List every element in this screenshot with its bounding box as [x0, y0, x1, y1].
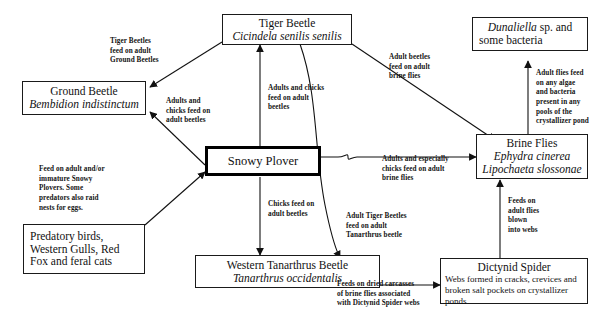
label-plover-eats-tiger: Adults and chicks feed on adult beetles [268, 84, 324, 113]
label-flies-eat-algae: Adult flies feed on any algae and bacter… [536, 69, 589, 127]
tiger-beetle-scientific-name: Cicindela senilis senilis [232, 30, 341, 43]
node-dunaliella[interactable]: Dunaliella sp. and some bacteria [472, 17, 588, 51]
label-tiger-eats-brineflies: Adult beetles feed on adult brine flies [389, 53, 430, 82]
ground-beetle-common-name: Ground Beetle [50, 85, 117, 98]
edge-predators-to-plover [145, 172, 205, 225]
node-dictynid-spider[interactable]: Dictynid Spider Webs formed in cracks, c… [440, 258, 588, 304]
predators-line-3: Fox and feral cats [30, 255, 112, 268]
edge-tiger-to-ground [150, 42, 222, 87]
ground-beetle-scientific-name: Bembidion indistinctum [29, 98, 139, 111]
food-web-diagram: Tiger Beetle Cicindela senilis senilis G… [0, 0, 611, 325]
label-tanarthrus-eats-carcasses: Feeds on dried carcasses of brine flies … [337, 280, 420, 309]
node-snowy-plover[interactable]: Snowy Plover [205, 146, 321, 176]
dunaliella-rest: sp. and [537, 21, 572, 33]
label-plover-eats-tanarthrus: Chicks feed on adult beetles [268, 200, 314, 219]
predators-line-2: Western Gulls, Red [30, 243, 119, 256]
label-plover-eats-ground: Adults and chicks feed on adult beetles [166, 97, 210, 126]
label-spider-eats-flies: Feeds on adult flies blown into webs [508, 197, 539, 236]
label-tiger-eats-ground: Tiger Beetles feed on adult Ground Beetl… [110, 37, 159, 66]
label-plover-eats-brineflies: Adults and especially chicks feed on adu… [382, 155, 449, 184]
label-tiger-eats-tanarthrus: Adult Tiger Beetles feed on adult Tanart… [346, 212, 407, 241]
brine-flies-scientific-name-1: Ephydra cinerea [494, 150, 571, 163]
dunaliella-genus: Dunaliella [488, 21, 537, 33]
dunaliella-line-2: some bacteria [473, 34, 543, 47]
dictynid-spider-description: Webs formed in cracks, crevices and brok… [441, 274, 587, 307]
node-predators[interactable]: Predatory birds, Western Gulls, Red Fox … [23, 224, 145, 274]
predators-line-1: Predatory birds, [30, 230, 103, 243]
snowy-plover-common-name: Snowy Plover [228, 154, 299, 168]
node-brine-flies[interactable]: Brine Flies Ephydra cinerea Lipochaeta s… [476, 134, 588, 179]
tanarthrus-beetle-common-name: Western Tanarthrus Beetle [227, 259, 348, 272]
node-tiger-beetle[interactable]: Tiger Beetle Cicindela senilis senilis [222, 14, 352, 45]
dunaliella-line-1: Dunaliella sp. and [488, 21, 573, 34]
tanarthrus-beetle-scientific-name: Tanarthrus occidentalis [233, 272, 342, 285]
dictynid-spider-common-name: Dictynid Spider [477, 261, 550, 274]
brine-flies-common-name: Brine Flies [507, 137, 558, 150]
brine-flies-scientific-name-2: Lipochaeta slossonae [482, 163, 581, 176]
node-ground-beetle[interactable]: Ground Beetle Bembidion indistinctum [22, 81, 146, 115]
tiger-beetle-common-name: Tiger Beetle [259, 17, 316, 30]
label-predators-eat-plover: Feed on adult and/or immature Snowy Plov… [39, 165, 105, 213]
